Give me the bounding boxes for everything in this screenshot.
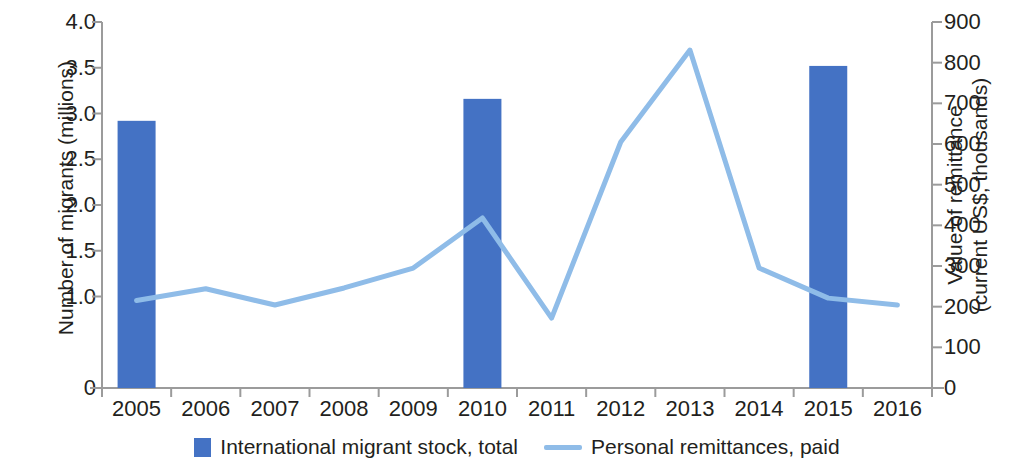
plot-area xyxy=(102,22,932,388)
y-right-tick-label: 900 xyxy=(944,11,1006,33)
y-left-tick-label: 1.0 xyxy=(36,286,96,308)
y-left-tick-label: 2.5 xyxy=(36,148,96,170)
y-right-tick-label: 300 xyxy=(944,255,1006,277)
plot-svg xyxy=(102,22,932,388)
x-axis-label-2010: 2010 xyxy=(442,396,522,422)
legend-bar-swatch-icon xyxy=(194,438,211,457)
bar-2010 xyxy=(463,99,501,388)
bar-series xyxy=(118,66,848,388)
x-axis-label-2015: 2015 xyxy=(788,396,868,422)
bar-2005 xyxy=(118,121,156,388)
legend-label-migrant-stock: International migrant stock, total xyxy=(220,435,518,459)
y-right-tick-label: 700 xyxy=(944,92,1006,114)
legend-label-remittances: Personal remittances, paid xyxy=(591,435,840,459)
x-axis-label-2016: 2016 xyxy=(857,396,937,422)
x-axis-label-2005: 2005 xyxy=(97,396,177,422)
y-right-tick-label: 0 xyxy=(944,377,1006,399)
x-axis-label-2007: 2007 xyxy=(235,396,315,422)
y-right-tick-label: 100 xyxy=(944,336,1006,358)
y-left-tick-label: 3.0 xyxy=(36,103,96,125)
y-axis-right-ticks: 0100200300400500600700800900 xyxy=(944,0,1006,462)
x-axis-label-2008: 2008 xyxy=(304,396,384,422)
y-right-tick-label: 800 xyxy=(944,52,1006,74)
x-axis-labels: 2005200620072008200920102011201220132014… xyxy=(102,396,932,428)
chart-legend: International migrant stock, total Perso… xyxy=(0,432,1034,462)
y-right-tick-label: 200 xyxy=(944,296,1006,318)
y-right-tick-label: 600 xyxy=(944,133,1006,155)
x-axis-label-2014: 2014 xyxy=(719,396,799,422)
y-left-tick-label: 2.0 xyxy=(36,194,96,216)
legend-item-remittances: Personal remittances, paid xyxy=(544,435,840,459)
x-axis-label-2009: 2009 xyxy=(373,396,453,422)
y-right-tick-label: 500 xyxy=(944,174,1006,196)
x-axis-label-2012: 2012 xyxy=(581,396,661,422)
chart-container: Number of migrants (millions) Value of r… xyxy=(0,0,1034,462)
legend-line-swatch-icon xyxy=(544,445,582,450)
line-series xyxy=(137,50,898,318)
remittances-line xyxy=(137,50,898,318)
x-axis-label-2013: 2013 xyxy=(650,396,730,422)
legend-item-migrant-stock: International migrant stock, total xyxy=(194,435,518,459)
y-left-tick-label: 3.5 xyxy=(36,57,96,79)
y-left-tick-label: 1.5 xyxy=(36,240,96,262)
x-axis-label-2006: 2006 xyxy=(166,396,246,422)
bar-2015 xyxy=(809,66,847,388)
x-axis-label-2011: 2011 xyxy=(512,396,592,422)
y-axis-left-ticks: 01.01.52.02.53.03.54.0 xyxy=(36,0,96,462)
y-right-tick-label: 400 xyxy=(944,214,1006,236)
y-left-tick-label: 4.0 xyxy=(36,11,96,33)
y-left-tick-label: 0 xyxy=(36,377,96,399)
